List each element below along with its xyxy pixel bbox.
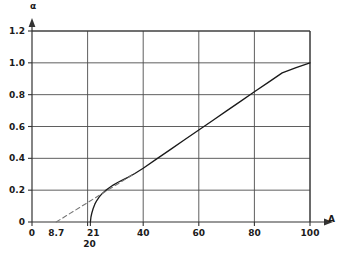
x-tick-label-100: 100 [301, 229, 320, 238]
series-asymptote-line [56, 175, 132, 222]
x-tick-label-40: 40 [137, 229, 150, 238]
tick-marks-group [28, 31, 310, 226]
x-tick-label-80: 80 [248, 229, 261, 238]
gridlines-group [32, 31, 310, 222]
y-tick-label-0.4: 0.4 [9, 154, 25, 163]
y-tick-label-0.2: 0.2 [9, 186, 25, 195]
y-tick-label-0.6: 0.6 [9, 122, 25, 131]
y-tick-label-1.0: 1.0 [9, 58, 25, 67]
x-tick-label-0: 0 [29, 229, 35, 238]
data-series-group [56, 63, 310, 222]
y-tick-label-0.8: 0.8 [9, 90, 25, 99]
x-axis-label: A [328, 215, 335, 224]
y-tick-label-1.2: 1.2 [9, 27, 25, 36]
annotation-curve-onset: 21 [87, 229, 100, 238]
y-axis-label: α [30, 2, 36, 11]
annotation-gridline-twenty: 20 [83, 240, 96, 249]
figure-container: α A 00.20.40.60.81.01.20204060801008.721… [0, 0, 342, 266]
annotation-dashed-intercept: 8.7 [48, 229, 64, 238]
series-alpha-curve [90, 63, 310, 222]
axis-arrows-group [29, 18, 333, 225]
chart-canvas [0, 0, 342, 266]
x-tick-label-60: 60 [193, 229, 206, 238]
y-tick-label-0: 0 [19, 218, 25, 227]
y-axis-arrowhead [29, 18, 36, 27]
plot-frame [32, 25, 326, 222]
